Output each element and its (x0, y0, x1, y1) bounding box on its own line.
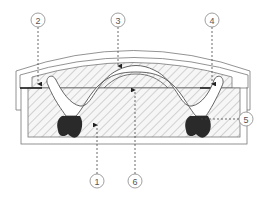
callout-6-label: 6 (132, 177, 137, 187)
callout-5-label: 5 (243, 115, 248, 125)
callout-1: 1 (90, 174, 104, 188)
callout-4-label: 4 (209, 16, 214, 26)
callout-1-label: 1 (94, 177, 99, 187)
callout-4: 4 (205, 13, 219, 27)
callout-5: 5 (239, 112, 253, 126)
callout-6: 6 (128, 174, 142, 188)
callout-2-label: 2 (35, 16, 40, 26)
callout-3-label: 3 (115, 16, 120, 26)
diagram-canvas: 1 2 3 4 5 6 (0, 0, 268, 201)
callout-2: 2 (31, 13, 45, 27)
cross-section-diagram: 1 2 3 4 5 6 (0, 0, 268, 201)
callout-3: 3 (111, 13, 125, 27)
